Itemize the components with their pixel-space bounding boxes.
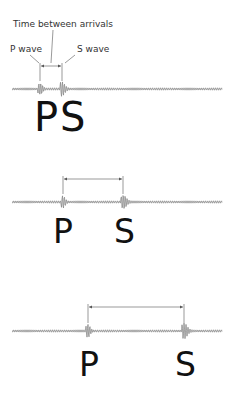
panel1-s-letter: S xyxy=(60,97,85,137)
panel2-p-letter: P xyxy=(53,215,73,248)
s-wave-label: S wave xyxy=(77,44,109,54)
seismic-waveform-3 xyxy=(12,323,222,339)
panel1-p-letter: P xyxy=(34,97,58,137)
time-between-arrivals-label: Time between arrivals xyxy=(13,19,113,29)
panel2-s-letter: S xyxy=(114,215,135,248)
p-wave-label: P wave xyxy=(10,44,42,54)
panel3-s-letter: S xyxy=(175,348,196,381)
panel3-p-letter: P xyxy=(79,348,99,381)
seismogram-diagram xyxy=(0,0,234,405)
seismic-waveform-2 xyxy=(12,196,222,209)
